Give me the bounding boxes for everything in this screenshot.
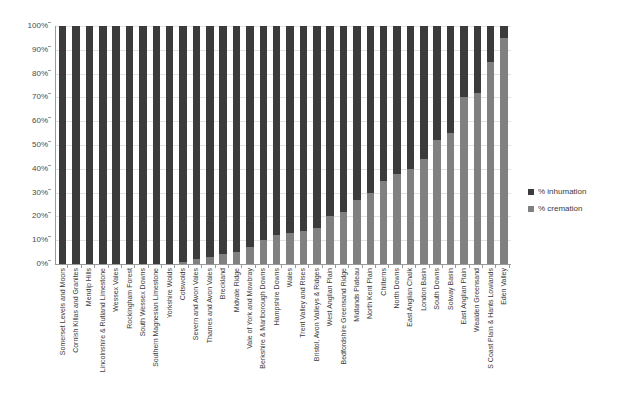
stacked-bar[interactable] (487, 26, 494, 264)
stacked-bar[interactable] (59, 26, 66, 264)
stacked-bar[interactable] (72, 26, 79, 264)
stacked-bar[interactable] (407, 26, 414, 264)
bar-slot[interactable] (431, 26, 444, 264)
bar-segment-inhumation (447, 26, 454, 133)
x-axis-label-slot: East Anglian Chalk (403, 268, 416, 388)
bar-slot[interactable] (123, 26, 136, 264)
bar-slot[interactable] (377, 26, 390, 264)
legend-item[interactable]: % cremation (528, 205, 616, 213)
legend-item[interactable]: % inhumation (528, 188, 616, 196)
x-axis-category-label: North Downs (393, 268, 400, 308)
stacked-bar[interactable] (340, 26, 347, 264)
y-axis-tick-mark (48, 46, 51, 47)
x-axis-category-label: Berkshire & Marlborough Downs (259, 268, 266, 369)
stacked-bar[interactable] (112, 26, 119, 264)
stacked-bar[interactable] (219, 26, 226, 264)
bar-segment-cremation (300, 231, 307, 264)
x-axis-category-label: London Basin (419, 268, 426, 311)
x-axis-label-slot: Chilterns (376, 268, 389, 388)
bar-slot[interactable] (176, 26, 189, 264)
bar-slot[interactable] (190, 26, 203, 264)
bar-slot[interactable] (350, 26, 363, 264)
y-axis-tick-mark (48, 22, 51, 23)
stacked-bar[interactable] (206, 26, 213, 264)
bar-segment-cremation (286, 233, 293, 264)
stacked-bar[interactable] (179, 26, 186, 264)
stacked-bar[interactable] (166, 26, 173, 264)
bar-segment-inhumation (313, 26, 320, 228)
stacked-bar[interactable] (126, 26, 133, 264)
bar-slot[interactable] (471, 26, 484, 264)
legend-swatch-icon (528, 189, 534, 195)
bar-slot[interactable] (404, 26, 417, 264)
stacked-bar[interactable] (260, 26, 267, 264)
x-axis-category-label: Wealden Greensand (473, 268, 480, 332)
stacked-bar[interactable] (233, 26, 240, 264)
bar-slot[interactable] (243, 26, 256, 264)
bar-slot[interactable] (497, 26, 510, 264)
x-axis-label-slot: Solway Basin (443, 268, 456, 388)
bar-slot[interactable] (337, 26, 350, 264)
stacked-bar[interactable] (246, 26, 253, 264)
x-axis-category-label: West Anglian Plain (326, 268, 333, 326)
stacked-bar[interactable] (99, 26, 106, 264)
bar-segment-inhumation (353, 26, 360, 200)
bar-slot[interactable] (150, 26, 163, 264)
x-axis-category-label: Trent Valley and Rises (299, 268, 306, 338)
bar-slot[interactable] (56, 26, 69, 264)
x-axis-label-slot: Trent Valley and Rises (296, 268, 309, 388)
stacked-bar[interactable] (86, 26, 93, 264)
x-axis-label-slot: South Downs (430, 268, 443, 388)
bar-slot[interactable] (364, 26, 377, 264)
bar-slot[interactable] (324, 26, 337, 264)
stacked-bar[interactable] (353, 26, 360, 264)
x-axis-label-slot: Rockingham Forest (122, 268, 135, 388)
stacked-bar[interactable] (193, 26, 200, 264)
stacked-bar[interactable] (380, 26, 387, 264)
x-axis-label-slot: S Coast Plain & Hants Lowlands (483, 268, 496, 388)
stacked-bar[interactable] (273, 26, 280, 264)
x-axis-category-label: S Coast Plain & Hants Lowlands (486, 268, 493, 369)
bar-slot[interactable] (69, 26, 82, 264)
y-axis-tick-mark (48, 165, 51, 166)
stacked-bar[interactable] (500, 26, 507, 264)
bar-segment-inhumation (393, 26, 400, 174)
bar-slot[interactable] (310, 26, 323, 264)
stacked-bar[interactable] (474, 26, 481, 264)
bar-slot[interactable] (283, 26, 296, 264)
x-axis-category-label: Southern Magnesian Limestone (152, 268, 159, 367)
bar-segment-cremation (326, 216, 333, 264)
stacked-bar[interactable] (433, 26, 440, 264)
bar-slot[interactable] (257, 26, 270, 264)
bar-segment-inhumation (367, 26, 374, 193)
bar-slot[interactable] (417, 26, 430, 264)
bar-slot[interactable] (390, 26, 403, 264)
stacked-bar[interactable] (393, 26, 400, 264)
stacked-bar[interactable] (139, 26, 146, 264)
bar-slot[interactable] (457, 26, 470, 264)
stacked-bar[interactable] (326, 26, 333, 264)
stacked-bar[interactable] (420, 26, 427, 264)
bar-slot[interactable] (444, 26, 457, 264)
bar-slot[interactable] (203, 26, 216, 264)
stacked-bar[interactable] (300, 26, 307, 264)
bar-slot[interactable] (270, 26, 283, 264)
bar-slot[interactable] (110, 26, 123, 264)
stacked-bar[interactable] (286, 26, 293, 264)
stacked-bar[interactable] (460, 26, 467, 264)
stacked-bar[interactable] (313, 26, 320, 264)
bar-slot[interactable] (217, 26, 230, 264)
stacked-bar[interactable] (153, 26, 160, 264)
bar-slot[interactable] (136, 26, 149, 264)
stacked-bar[interactable] (367, 26, 374, 264)
bar-slot[interactable] (484, 26, 497, 264)
legend-label: % cremation (538, 205, 582, 213)
stacked-bar[interactable] (447, 26, 454, 264)
bar-slot[interactable] (297, 26, 310, 264)
plot-area (55, 26, 511, 265)
stacked-bar-chart: 100%90%80%70%60%50%40%30%20%10%0% Somers… (0, 0, 620, 396)
bar-slot[interactable] (96, 26, 109, 264)
bar-slot[interactable] (163, 26, 176, 264)
bar-slot[interactable] (83, 26, 96, 264)
bar-slot[interactable] (230, 26, 243, 264)
